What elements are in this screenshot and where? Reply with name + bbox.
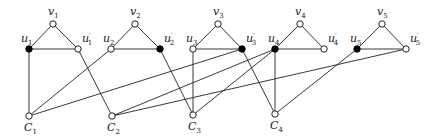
vertex-v4 xyxy=(297,21,303,27)
edge-v1-u1 xyxy=(29,24,53,49)
edge-u5-C4 xyxy=(275,49,357,114)
label-v2: v2 xyxy=(130,5,141,20)
vertex-C2 xyxy=(109,113,115,119)
vertex-u4p xyxy=(321,46,327,52)
vertex-v1 xyxy=(50,21,56,27)
edge-u1p-C2 xyxy=(78,49,112,116)
edge-u3p-C4 xyxy=(242,49,275,114)
edge-v3-u3p xyxy=(218,24,242,49)
label-u4p: u′4 xyxy=(328,32,339,47)
vertex-v2 xyxy=(132,21,138,27)
vertex-u2p xyxy=(157,46,163,52)
label-v5: v5 xyxy=(377,5,388,20)
graph-diagram: v1u1u′1v2u2u′2v3u3u′3v4u4u′4v5u5u′5C1C2C… xyxy=(0,0,440,139)
vertex-v3 xyxy=(215,21,221,27)
vertex-C4 xyxy=(272,111,278,117)
edge-v2-u2 xyxy=(111,24,135,49)
edge-u2-C1 xyxy=(29,49,111,116)
label-u5: u5 xyxy=(350,32,362,47)
label-u1p: u′1 xyxy=(82,32,92,47)
label-v4: v4 xyxy=(295,5,306,20)
label-C3: C3 xyxy=(188,120,201,135)
label-u1: u1 xyxy=(21,32,33,47)
vertex-C3 xyxy=(190,112,196,118)
label-u2p: u′2 xyxy=(164,32,174,47)
edge-v4-u4p xyxy=(300,24,324,49)
label-u2: u2 xyxy=(103,32,115,47)
label-v1: v1 xyxy=(48,5,59,20)
label-C4: C4 xyxy=(270,119,283,134)
vertex-u1p xyxy=(75,46,81,52)
label-u3p: u′3 xyxy=(246,32,256,47)
vertex-u5p xyxy=(403,46,409,52)
label-C1: C1 xyxy=(24,121,37,136)
edge-v2-u2p xyxy=(135,24,160,49)
label-v3: v3 xyxy=(213,5,224,20)
vertex-v5 xyxy=(379,21,385,27)
edge-v1-u1p xyxy=(53,24,78,49)
vertex-C1 xyxy=(26,113,32,119)
edge-u5p-C2 xyxy=(112,49,406,116)
label-u3: u3 xyxy=(186,32,198,47)
vertex-u3p xyxy=(239,46,245,52)
label-u4: u4 xyxy=(268,32,280,47)
edge-v5-u5p xyxy=(382,24,406,49)
label-C2: C2 xyxy=(107,121,120,136)
label-u5p: u′5 xyxy=(410,32,420,47)
edge-u2p-C3 xyxy=(160,49,193,115)
